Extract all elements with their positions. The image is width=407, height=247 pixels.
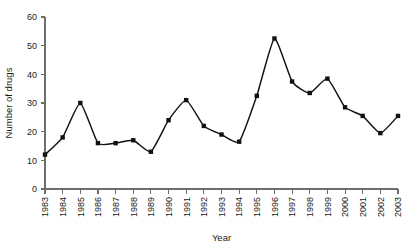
x-tick-label: 1991	[182, 197, 192, 217]
data-point-marker	[325, 76, 329, 80]
y-tick-label: 20	[27, 127, 37, 137]
y-tick-label: 50	[27, 41, 37, 51]
data-point-marker	[60, 135, 64, 139]
data-point-marker	[202, 124, 206, 128]
data-point-marker	[149, 150, 153, 154]
series-line-number-of-drugs	[45, 38, 398, 154]
x-tick-label: 1987	[111, 197, 121, 217]
line-chart: 0102030405060198319841985198619871988198…	[0, 0, 407, 247]
y-axis-title: Number of drugs	[3, 67, 14, 138]
x-tick-label: 2000	[340, 197, 350, 217]
x-tick-label: 1990	[164, 197, 174, 217]
data-point-marker	[78, 101, 82, 105]
data-point-marker	[343, 105, 347, 109]
data-point-marker	[131, 138, 135, 142]
y-tick-label: 10	[27, 156, 37, 166]
data-point-marker	[237, 140, 241, 144]
data-point-marker	[113, 141, 117, 145]
y-tick-label: 60	[27, 12, 37, 22]
data-point-marker	[272, 36, 276, 40]
x-tick-label: 1997	[287, 197, 297, 217]
data-point-marker	[396, 114, 400, 118]
data-point-marker	[308, 91, 312, 95]
y-tick-label: 0	[32, 184, 37, 194]
x-tick-label: 2003	[393, 197, 403, 217]
x-tick-label: 1994	[234, 197, 244, 217]
data-point-marker	[378, 131, 382, 135]
x-tick-label: 1996	[270, 197, 280, 217]
x-tick-label: 1986	[93, 197, 103, 217]
data-point-marker	[290, 79, 294, 83]
x-tick-label: 1998	[305, 197, 315, 217]
x-tick-label: 2001	[358, 197, 368, 217]
data-point-marker	[96, 141, 100, 145]
y-tick-label: 30	[27, 98, 37, 108]
y-tick-label: 40	[27, 70, 37, 80]
data-point-marker	[255, 94, 259, 98]
x-axis-title: Year	[212, 232, 231, 243]
data-point-marker	[219, 132, 223, 136]
data-point-marker	[166, 118, 170, 122]
x-tick-label: 1984	[58, 197, 68, 217]
chart-plot-area: 0102030405060198319841985198619871988198…	[0, 0, 407, 247]
x-tick-label: 1993	[217, 197, 227, 217]
x-tick-label: 1985	[76, 197, 86, 217]
x-tick-label: 2002	[376, 197, 386, 217]
data-point-marker	[361, 114, 365, 118]
x-tick-label: 1999	[323, 197, 333, 217]
data-point-marker	[184, 98, 188, 102]
x-tick-label: 1983	[40, 197, 50, 217]
x-tick-label: 1988	[129, 197, 139, 217]
x-tick-label: 1989	[146, 197, 156, 217]
data-point-marker	[43, 152, 47, 156]
x-tick-label: 1995	[252, 197, 262, 217]
x-tick-label: 1992	[199, 197, 209, 217]
